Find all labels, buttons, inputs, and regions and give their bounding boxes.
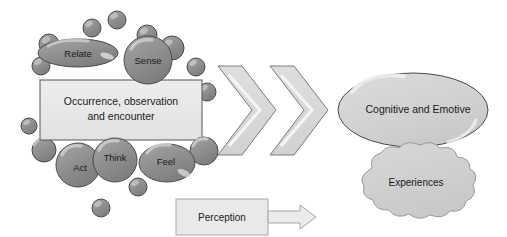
bubble-think[interactable]: Think [93, 138, 137, 182]
bubble-sense-label: Sense [135, 55, 162, 66]
stimulus-box: Occurrence, observation and encounter [40, 80, 202, 140]
bubble-relate-label: Relate [64, 48, 91, 59]
perception-flow-arrow [268, 205, 316, 229]
bubble-relate[interactable]: Relate [38, 39, 118, 67]
stimulus-box-label-line2: and encounter [87, 110, 155, 122]
decor-bubble [32, 138, 56, 162]
decor-bubble [108, 11, 126, 29]
decor-bubble [92, 199, 110, 217]
perception-box-label: Perception [198, 212, 246, 223]
bubble-feel[interactable]: Feel [139, 144, 195, 182]
decor-bubble [129, 178, 147, 196]
bubble-feel-label: Feel [157, 156, 175, 167]
outcome-oval-label: Cognitive and Emotive [365, 103, 470, 115]
perception-process-diagram: Occurrence, observation and encounter Re… [0, 0, 507, 237]
bubble-sense[interactable]: Sense [124, 36, 172, 84]
diagram-canvas: Occurrence, observation and encounter Re… [0, 0, 507, 237]
chevron-1 [218, 66, 276, 155]
stimulus-box-label-line1: Occurrence, observation [64, 95, 179, 107]
decor-bubble [21, 118, 37, 134]
perception-box: Perception [176, 199, 268, 235]
experiences-cloud-label: Experiences [388, 177, 443, 188]
outcome-oval: Cognitive and Emotive [338, 73, 488, 147]
decor-bubble [83, 19, 101, 37]
bubble-act-label: Act [73, 162, 87, 173]
bubble-think-label: Think [103, 152, 126, 163]
chevron-2 [270, 66, 328, 155]
decor-bubble [187, 58, 205, 76]
experiences-cloud: Experiences [362, 143, 476, 219]
